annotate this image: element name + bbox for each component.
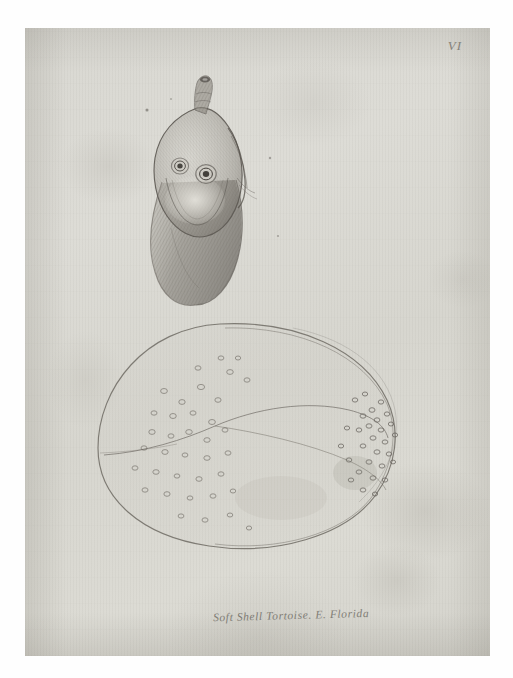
screenshot-root: VI — [0, 0, 513, 678]
paper-sheet: VI — [25, 28, 490, 656]
carapace-smudge-2 — [235, 476, 327, 520]
carapace-smudge — [333, 456, 377, 490]
carapace-group — [98, 324, 398, 549]
turtle-carapace-figure — [25, 28, 490, 656]
